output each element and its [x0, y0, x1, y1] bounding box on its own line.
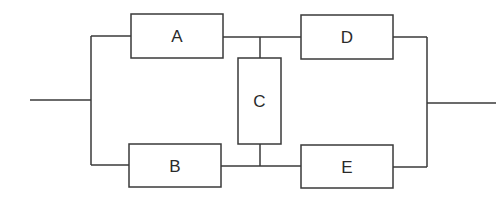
block-e: E	[301, 145, 393, 188]
block-a-label: A	[171, 27, 183, 46]
block-d-label: D	[341, 28, 353, 47]
block-e-label: E	[341, 158, 352, 177]
block-c: C	[238, 58, 281, 144]
block-b: B	[129, 144, 221, 187]
block-a: A	[131, 14, 223, 58]
block-b-label: B	[169, 157, 180, 176]
block-d: D	[301, 15, 393, 59]
reliability-block-diagram: A B C D E	[0, 0, 500, 201]
block-c-label: C	[253, 92, 265, 111]
